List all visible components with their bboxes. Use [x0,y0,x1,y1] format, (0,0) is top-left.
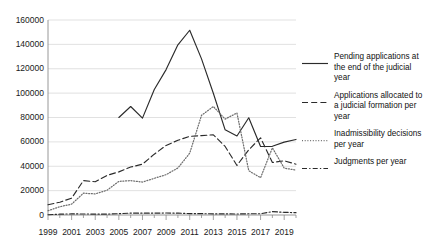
series-line-2 [48,135,296,205]
x-axis-tick-label: 2011 [177,228,203,237]
x-axis-tick-label: 2001 [59,228,85,237]
x-axis-tick-label: 2007 [129,228,155,237]
legend-item-label: Judgments per year [334,157,406,168]
x-axis-tick-label: 2017 [248,228,274,237]
legend-item: Judgments per year [302,157,427,171]
legend-item-label: Applications allocated to a judicial for… [334,91,427,123]
legend-line-sample-dashdot [302,160,328,171]
legend-item-label: Pending applications at the end of the j… [334,52,427,84]
legend-line-sample-solid [302,55,328,66]
legend-line-sample-dotted [302,132,328,143]
series-line-3 [48,107,296,211]
y-axis-tick-label: 40000 [0,162,44,171]
legend-line-sample-dashed [302,94,328,105]
y-axis-tick-label: 80000 [0,113,44,122]
y-axis-tick-label: 100000 [0,89,44,98]
x-axis-tick-label: 2005 [106,228,132,237]
line-chart: 0200004000060000800001000001200001400001… [0,0,427,246]
y-axis-tick-label: 140000 [0,40,44,49]
series-line-4 [48,212,296,215]
x-axis-tick-label: 2009 [153,228,179,237]
x-axis-tick-label: 2013 [200,228,226,237]
legend-item: Applications allocated to a judicial for… [302,91,427,123]
legend-item: Pending applications at the end of the j… [302,52,427,84]
y-axis-tick-label: 60000 [0,137,44,146]
legend-item-label: Inadmissibility decisions per year [334,129,427,150]
y-axis-tick-label: 20000 [0,186,44,195]
y-axis-tick-label: 120000 [0,64,44,73]
x-axis-tick-label: 2019 [271,228,297,237]
x-axis-tick-label: 1999 [35,228,61,237]
x-axis-tick-label: 2015 [224,228,250,237]
y-axis-tick-label: 0 [0,211,44,220]
series-line-1 [119,30,296,146]
chart-legend: Pending applications at the end of the j… [302,52,427,178]
x-axis-tick-label: 2003 [82,228,108,237]
legend-item: Inadmissibility decisions per year [302,129,427,150]
y-axis-tick-label: 160000 [0,16,44,25]
